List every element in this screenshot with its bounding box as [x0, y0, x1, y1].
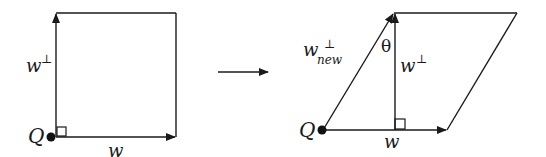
theta-angle-label: θ [381, 36, 391, 56]
left-origin-label: Q [28, 124, 44, 148]
right-origin-label: Q [299, 118, 315, 142]
w-perp-new-subscript: new [317, 53, 343, 67]
w-perp-new-superscript: ⊥ [324, 37, 335, 51]
left-w-perp-label: w [26, 55, 42, 76]
right-parallelogram-diagram: Q w θ w ⊥ w ⊥ new [299, 13, 517, 152]
right-w-perp-new-vector [323, 14, 393, 130]
right-w-label: w [384, 131, 400, 152]
right-w-perp-label: w [400, 55, 416, 76]
right-w-perp-superscript: ⊥ [416, 52, 427, 66]
left-square-diagram: Q w w ⊥ [26, 13, 176, 157]
diagram-canvas: Q w w ⊥ Q w θ w ⊥ w ⊥ new [0, 0, 546, 157]
right-right-angle-mark [395, 119, 405, 129]
left-origin-dot [47, 133, 56, 142]
left-w-label: w [108, 140, 124, 157]
right-slant-edge [447, 13, 517, 130]
left-w-perp-superscript: ⊥ [41, 52, 52, 66]
left-right-angle-mark [57, 127, 66, 136]
right-origin-dot [318, 126, 327, 135]
